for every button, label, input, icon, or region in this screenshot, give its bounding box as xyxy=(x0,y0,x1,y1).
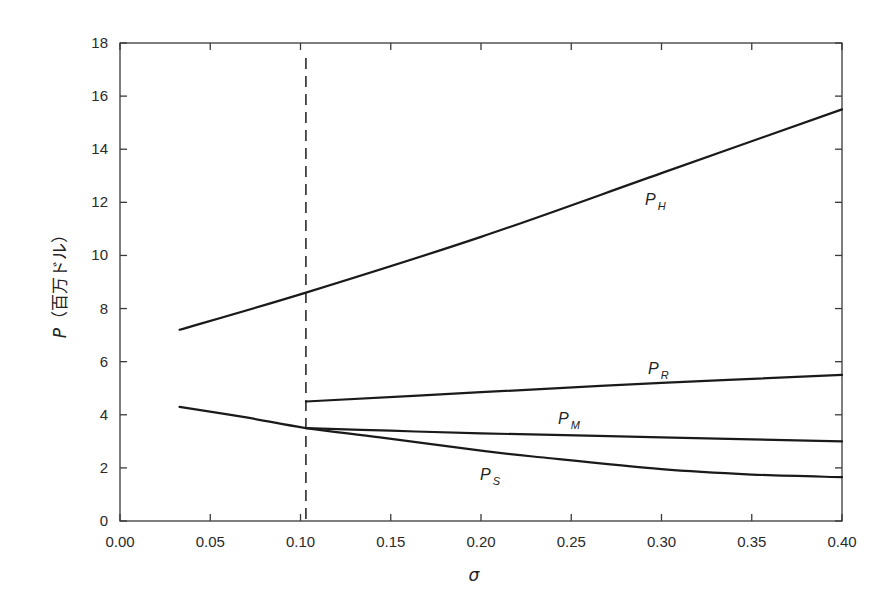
series-label-p-r: PR xyxy=(648,360,669,381)
y-tick-label: 12 xyxy=(91,193,108,210)
x-tick-label: 0.05 xyxy=(196,533,225,550)
x-tick-label: 0.00 xyxy=(105,533,134,550)
series-label-p-s: PS xyxy=(480,466,501,487)
series-curves xyxy=(180,109,842,477)
series-label-p-h: PH xyxy=(645,191,666,212)
axes-box xyxy=(120,43,842,521)
y-tick-label: 14 xyxy=(91,140,108,157)
y-tick-label: 16 xyxy=(91,87,108,104)
x-axis-tick-labels: 0.000.050.100.150.200.250.300.350.40 xyxy=(105,533,856,550)
curve-p-h xyxy=(180,109,842,329)
x-axis-title: σ xyxy=(469,565,481,585)
y-tick-label: 0 xyxy=(100,512,108,529)
curve-p-s xyxy=(180,407,842,477)
x-tick-label: 0.30 xyxy=(647,533,676,550)
y-tick-label: 2 xyxy=(100,459,108,476)
series-label-p-m: PM xyxy=(558,410,581,431)
x-tick-label: 0.15 xyxy=(376,533,405,550)
y-axis-title-unit: （百万ドル） xyxy=(50,226,70,328)
x-tick-label: 0.35 xyxy=(737,533,766,550)
line-chart: 0.000.050.100.150.200.250.300.350.40 024… xyxy=(0,0,896,614)
x-tick-label: 0.10 xyxy=(286,533,315,550)
y-axis-tick-labels: 024681012141618 xyxy=(91,34,108,529)
series-labels: PHPRPMPS xyxy=(480,191,669,487)
y-tick-label: 6 xyxy=(100,353,108,370)
x-tick-label: 0.40 xyxy=(827,533,856,550)
x-tick-label: 0.25 xyxy=(557,533,586,550)
curve-p-r xyxy=(306,375,842,402)
y-tick-label: 10 xyxy=(91,246,108,263)
x-tick-label: 0.20 xyxy=(466,533,495,550)
y-axis-title: P（百万ドル） xyxy=(50,226,70,338)
plot-frame xyxy=(120,43,842,521)
y-tick-label: 8 xyxy=(100,300,108,317)
axis-ticks xyxy=(120,43,842,521)
y-tick-label: 4 xyxy=(100,406,108,423)
y-tick-label: 18 xyxy=(91,34,108,51)
